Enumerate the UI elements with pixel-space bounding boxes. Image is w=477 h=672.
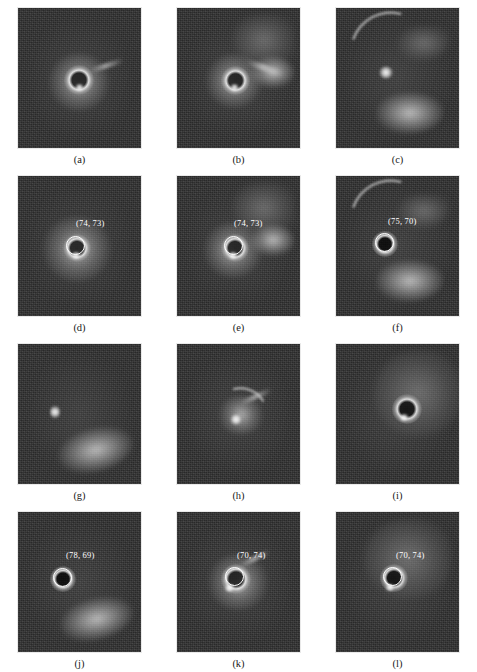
coordinate-label: (74, 73) (234, 218, 263, 228)
vignette (18, 8, 141, 148)
circle-marker (375, 233, 394, 252)
coordinate-label: (78, 69) (66, 550, 95, 560)
circle-marker (53, 568, 72, 587)
panel-cell-k: (70, 74) (k) (159, 504, 318, 672)
image-panel-b (177, 8, 300, 148)
vignette (336, 8, 459, 148)
panel-caption: (k) (232, 658, 244, 669)
vignette (336, 344, 459, 484)
panel-caption: (a) (74, 154, 86, 165)
vignette (336, 176, 459, 316)
panel-cell-g: (g) (0, 336, 159, 504)
panel-cell-l: (70, 74) (l) (318, 504, 477, 672)
image-panel-k: (70, 74) (177, 512, 300, 652)
image-panel-i (336, 344, 459, 484)
image-panel-h (177, 344, 300, 484)
panel-cell-a: (a) (0, 0, 159, 168)
panel-cell-f: (75, 70) (f) (318, 168, 477, 336)
panel-cell-d: (74, 73) (d) (0, 168, 159, 336)
panel-caption: (b) (232, 154, 244, 165)
coordinate-label: (74, 73) (76, 218, 105, 228)
image-panel-j: (78, 69) (18, 512, 141, 652)
panel-caption: (f) (392, 322, 403, 333)
image-panel-f: (75, 70) (336, 176, 459, 316)
panel-cell-i: (i) (318, 336, 477, 504)
circle-marker (383, 567, 402, 586)
image-panel-l: (70, 74) (336, 512, 459, 652)
image-panel-a (18, 8, 141, 148)
image-panel-d: (74, 73) (18, 176, 141, 316)
vignette (177, 344, 300, 484)
panel-cell-c: (c) (318, 0, 477, 168)
panel-caption: (d) (73, 322, 85, 333)
coordinate-label: (70, 74) (396, 550, 425, 560)
panel-cell-j: (78, 69) (j) (0, 504, 159, 672)
panel-cell-b: (b) (159, 0, 318, 168)
figure-panel-grid: (a) (b) (0, 0, 477, 672)
panel-caption: (h) (232, 490, 244, 501)
image-panel-c (336, 8, 459, 148)
panel-caption: (i) (393, 490, 403, 501)
panel-cell-e: (74, 73) (e) (159, 168, 318, 336)
circle-marker (224, 236, 243, 255)
circle-marker (225, 567, 244, 586)
panel-grid: (a) (b) (0, 0, 477, 672)
panel-caption: (l) (393, 658, 403, 669)
coordinate-label: (70, 74) (237, 550, 266, 560)
coordinate-label: (75, 70) (388, 216, 417, 226)
vignette (18, 344, 141, 484)
panel-cell-h: (h) (159, 336, 318, 504)
vignette (177, 8, 300, 148)
image-panel-e: (74, 73) (177, 176, 300, 316)
vignette (18, 512, 141, 652)
image-panel-g (18, 344, 141, 484)
panel-caption: (c) (392, 154, 404, 165)
circle-marker (66, 236, 85, 255)
panel-caption: (j) (75, 658, 85, 669)
panel-caption: (e) (233, 322, 245, 333)
panel-caption: (g) (73, 490, 85, 501)
